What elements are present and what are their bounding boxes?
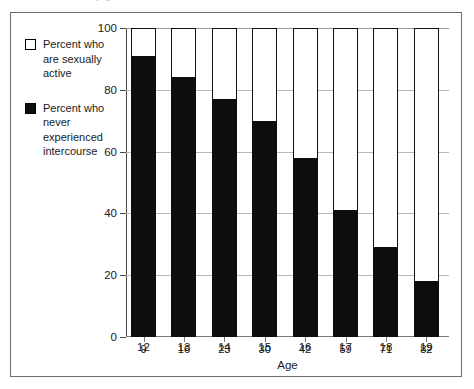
y-tick-label: 100 <box>98 22 117 34</box>
x-tick-label-age-13: 13 <box>171 341 196 353</box>
y-tick-mark <box>120 213 126 214</box>
bar-segment-never-experienced-intercourse[interactable] <box>252 121 277 337</box>
y-tick-mark <box>120 275 126 276</box>
filled-square-icon <box>25 103 36 114</box>
x-tick-label-age-17: 17 <box>333 341 358 353</box>
y-tick-label: 60 <box>104 146 117 158</box>
y-tick-mark <box>120 90 126 91</box>
y-tick-label: 40 <box>104 207 117 219</box>
x-tick-label-age-14: 14 <box>212 341 237 353</box>
y-tick-label: 80 <box>104 84 117 96</box>
legend-entry-sexually-active: Percent who are sexually active <box>25 37 121 81</box>
legend-label-sexually-active: Percent who are sexually active <box>43 37 121 81</box>
bar-segment-never-experienced-intercourse[interactable] <box>293 158 318 337</box>
x-tick-label-age-12: 12 <box>131 341 156 353</box>
bar-segment-never-experienced-intercourse[interactable] <box>171 77 196 337</box>
hollow-square-icon <box>25 39 36 50</box>
x-axis-title: Age <box>126 359 449 371</box>
cut-off-text-remnant: y g <box>0 0 474 9</box>
x-tick-label-age-16: 16 <box>293 341 318 353</box>
bar-segment-never-experienced-intercourse[interactable] <box>373 247 398 337</box>
bar-segment-never-experienced-intercourse[interactable] <box>333 210 358 337</box>
x-tick-label-age-18: 18 <box>373 341 398 353</box>
x-tick-label-age-19: 19 <box>414 341 439 353</box>
y-tick-mark <box>120 337 126 338</box>
bar-segment-never-experienced-intercourse[interactable] <box>414 281 439 337</box>
cut-off-text: y g <box>96 0 112 1</box>
y-tick-mark <box>120 28 126 29</box>
y-tick-mark <box>120 152 126 153</box>
bar-segment-never-experienced-intercourse[interactable] <box>212 99 237 337</box>
y-tick-label: 20 <box>104 269 117 281</box>
y-axis-line <box>126 28 127 337</box>
bar-segment-never-experienced-intercourse[interactable] <box>131 56 156 337</box>
figure-frame: Percent who are sexually active Percent … <box>10 12 462 377</box>
y-tick-label: 0 <box>111 331 117 343</box>
plot-area: 020406080100 912161323143015421659177118… <box>126 28 449 337</box>
x-tick-label-age-15: 15 <box>252 341 277 353</box>
